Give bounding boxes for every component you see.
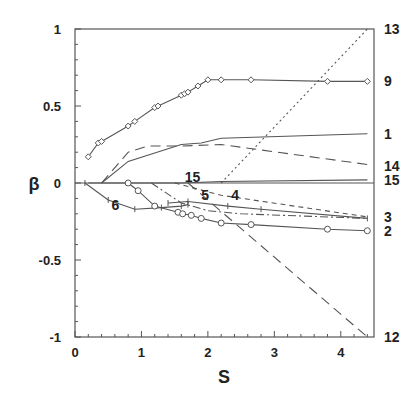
circle-marker bbox=[152, 203, 158, 209]
y-axis-title: β bbox=[29, 174, 40, 194]
diamond-marker bbox=[364, 78, 370, 84]
circle-marker bbox=[324, 226, 330, 232]
y-tick-label: -1 bbox=[49, 330, 61, 345]
diamond-marker bbox=[205, 77, 211, 83]
series-4 bbox=[168, 202, 367, 219]
circle-marker bbox=[180, 211, 186, 217]
diamond-marker bbox=[248, 77, 254, 83]
right-curve-label: 15 bbox=[384, 172, 400, 188]
x-tick-label: 2 bbox=[204, 345, 211, 360]
chart: 0123410.50-0.5-1 13911415321261554 S β bbox=[0, 0, 420, 401]
diamond-marker bbox=[195, 83, 201, 89]
series-14 bbox=[102, 145, 368, 184]
series-12 bbox=[188, 183, 367, 337]
right-curve-label: 9 bbox=[384, 73, 392, 89]
circle-marker bbox=[248, 222, 254, 228]
y-tick-label: -0.5 bbox=[39, 253, 61, 268]
right-curve-label: 2 bbox=[384, 223, 392, 239]
x-tick-label: 3 bbox=[271, 345, 278, 360]
inline-curve-label: 6 bbox=[112, 197, 120, 213]
series-13 bbox=[221, 29, 367, 183]
y-tick-label: 0.5 bbox=[43, 99, 61, 114]
x-axis-title: S bbox=[218, 367, 230, 387]
series-6 bbox=[85, 183, 188, 209]
inline-curve-label: 5 bbox=[201, 187, 209, 203]
circle-marker bbox=[188, 212, 194, 218]
circle-marker bbox=[218, 220, 224, 226]
x-tick-label: 1 bbox=[138, 345, 145, 360]
diamond-marker bbox=[218, 77, 224, 83]
x-tick-label: 4 bbox=[337, 345, 345, 360]
inline-curve-label: 4 bbox=[231, 187, 239, 203]
x-tick-label: 0 bbox=[71, 345, 78, 360]
y-tick-label: 1 bbox=[54, 22, 61, 37]
inline-curve-label: 15 bbox=[185, 169, 201, 185]
series-markers bbox=[85, 77, 370, 234]
right-curve-label: 13 bbox=[384, 21, 400, 37]
circle-marker bbox=[125, 180, 131, 186]
series-9 bbox=[88, 80, 367, 157]
diamond-marker bbox=[324, 78, 330, 84]
right-curve-label: 1 bbox=[384, 126, 392, 142]
right-curve-label: 12 bbox=[384, 329, 400, 345]
circle-marker bbox=[135, 188, 141, 194]
circle-marker bbox=[364, 228, 370, 234]
series-1 bbox=[102, 134, 368, 183]
circle-marker bbox=[198, 215, 204, 221]
y-tick-label: 0 bbox=[54, 176, 61, 191]
